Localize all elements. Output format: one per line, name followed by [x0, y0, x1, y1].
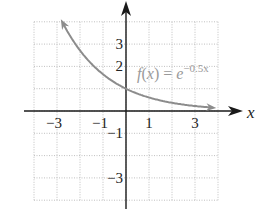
- x-axis-label: x: [246, 103, 255, 122]
- y-tick-label: 2: [116, 58, 124, 74]
- y-tick-label: −1: [107, 125, 123, 141]
- y-tick-label: −3: [107, 170, 123, 186]
- x-tick-label: −1: [92, 115, 108, 131]
- x-tick-label: −3: [46, 115, 62, 131]
- function-label: f(x) = e−0.5x: [137, 62, 209, 83]
- x-tick-label: 1: [145, 115, 153, 131]
- x-tick-label: 3: [191, 115, 199, 131]
- y-tick-label: 3: [116, 36, 124, 52]
- exponential-graph: −3−11332−1−3 x f(x) = e−0.5x: [0, 0, 273, 209]
